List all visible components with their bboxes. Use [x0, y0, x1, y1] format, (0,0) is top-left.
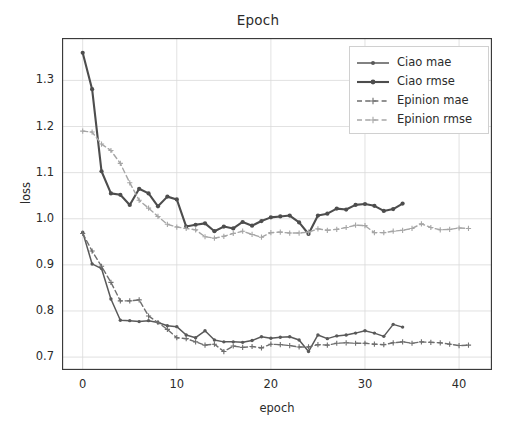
data-point	[90, 87, 94, 91]
data-point	[118, 298, 123, 303]
data-point	[213, 338, 216, 341]
data-point	[269, 215, 273, 219]
data-point	[118, 193, 122, 197]
series-epinion-mae	[80, 231, 471, 354]
legend-marker	[371, 79, 376, 84]
data-point	[438, 227, 443, 232]
data-point	[325, 228, 330, 233]
y-tick-label: 1.1	[20, 165, 54, 179]
data-point	[269, 336, 272, 339]
data-point	[428, 225, 433, 230]
data-point	[391, 229, 396, 234]
data-point	[297, 338, 300, 341]
data-point	[428, 340, 433, 345]
data-point	[231, 226, 235, 230]
data-point	[297, 230, 302, 235]
data-point	[278, 230, 283, 235]
data-point	[260, 335, 263, 338]
data-point	[99, 169, 103, 173]
data-point	[137, 198, 142, 203]
data-point	[400, 339, 405, 344]
data-point	[392, 323, 395, 326]
data-point	[325, 212, 329, 216]
data-point	[363, 329, 366, 332]
data-point	[193, 339, 198, 344]
data-point	[278, 342, 283, 347]
data-point	[409, 341, 414, 346]
data-point	[212, 236, 217, 241]
legend-item-epinion-rmse[interactable]: Epinion rmse	[356, 109, 481, 128]
data-point	[221, 234, 226, 239]
data-point	[288, 335, 291, 338]
data-point	[249, 344, 254, 349]
data-point	[363, 202, 367, 206]
data-point	[307, 350, 310, 353]
legend-item-ciao-rmse[interactable]: Ciao rmse	[356, 71, 481, 90]
data-point	[175, 197, 179, 201]
y-tick-label: 1.3	[20, 72, 54, 86]
x-tick-label: 30	[350, 377, 380, 391]
data-point	[194, 336, 197, 339]
legend-marker	[371, 61, 375, 65]
series-line	[83, 131, 469, 238]
data-point	[250, 224, 254, 228]
data-point	[278, 214, 282, 218]
x-tick-label: 10	[162, 377, 192, 391]
y-tick-label: 0.7	[20, 349, 54, 363]
data-point	[344, 340, 349, 345]
data-point	[109, 191, 113, 195]
data-point	[174, 224, 179, 229]
data-point	[128, 203, 132, 207]
x-tick-label: 0	[68, 377, 98, 391]
data-point	[249, 232, 254, 237]
data-point	[382, 335, 385, 338]
data-point	[119, 319, 122, 322]
data-point	[353, 223, 358, 228]
data-point	[419, 339, 424, 344]
data-point	[212, 229, 216, 233]
data-point	[381, 342, 386, 347]
data-point	[382, 209, 386, 213]
data-point	[165, 195, 169, 199]
data-point	[279, 336, 282, 339]
data-point	[334, 341, 339, 346]
data-point	[156, 204, 160, 208]
data-point	[362, 341, 367, 346]
data-point	[146, 191, 150, 195]
data-point	[232, 340, 235, 343]
data-point	[456, 225, 461, 230]
data-point	[335, 207, 339, 211]
legend-marker	[370, 97, 376, 103]
data-point	[90, 248, 95, 253]
data-point	[80, 129, 85, 134]
series-line	[83, 234, 469, 352]
legend-item-ciao-mae[interactable]: Ciao mae	[356, 52, 481, 71]
x-tick-label: 40	[444, 377, 474, 391]
data-point	[297, 220, 301, 224]
data-point	[353, 341, 358, 346]
data-point	[203, 329, 206, 332]
data-point	[400, 228, 405, 233]
data-point	[297, 344, 302, 349]
data-point	[202, 343, 207, 348]
data-point	[419, 221, 424, 226]
legend-label: Epinion mae	[397, 93, 469, 107]
data-point	[175, 325, 178, 328]
data-point	[259, 345, 264, 350]
data-point	[240, 345, 245, 350]
data-point	[344, 225, 349, 230]
data-point	[268, 230, 273, 235]
data-point	[381, 230, 386, 235]
data-point	[325, 343, 330, 348]
data-point	[81, 51, 85, 55]
data-point	[316, 333, 319, 336]
data-point	[194, 223, 198, 227]
data-point	[373, 331, 376, 334]
data-point	[240, 229, 245, 234]
data-point	[326, 337, 329, 340]
data-point	[287, 230, 292, 235]
data-point	[391, 207, 395, 211]
legend-item-epinion-mae[interactable]: Epinion mae	[356, 90, 481, 109]
data-point	[241, 341, 244, 344]
data-point	[259, 219, 263, 223]
